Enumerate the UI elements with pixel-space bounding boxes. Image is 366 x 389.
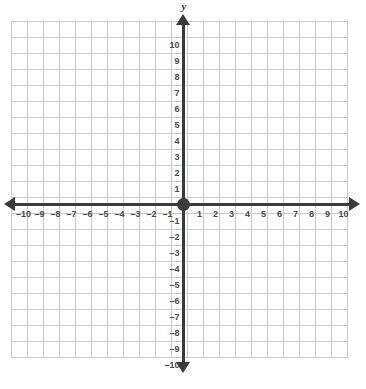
y-tick-label-10: 10 [158,40,180,51]
y-tick-label-neg8: –8 [158,328,180,339]
y-axis [182,24,185,364]
y-tick-label-7: 7 [158,88,180,99]
y-tick-label-neg10: –10 [158,360,180,371]
y-tick-label-2: 2 [158,168,180,179]
y-tick-label-neg1: –1 [158,216,180,227]
y-axis-arrow-up-icon [176,14,190,25]
y-tick-label-neg5: –5 [158,280,180,291]
y-tick-label-5: 5 [158,120,180,131]
y-tick-label-6: 6 [158,104,180,115]
coordinate-grid-graph: y –10–9–8–7–6–5–4–3–2–112345678910 10987… [0,0,366,389]
grid-edge-bottom [11,357,348,358]
y-tick-label-9: 9 [158,56,180,67]
y-tick-label-1: 1 [158,184,180,195]
x-tick-label-10: 10 [333,209,355,220]
y-tick-label-neg4: –4 [158,264,180,275]
y-tick-label-8: 8 [158,72,180,83]
y-tick-label-neg3: –3 [158,248,180,259]
y-tick-label-neg2: –2 [158,232,180,243]
y-tick-label-3: 3 [158,152,180,163]
y-tick-label-neg6: –6 [158,296,180,307]
grid-edge-right [347,21,348,358]
y-tick-label-4: 4 [158,136,180,147]
y-tick-label-neg9: –9 [158,344,180,355]
y-axis-title: y [176,0,192,13]
y-tick-label-neg7: –7 [158,312,180,323]
